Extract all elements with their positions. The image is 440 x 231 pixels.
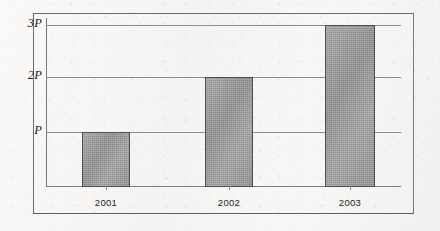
x-tick-2002 (229, 186, 230, 190)
x-tick-2001 (106, 186, 107, 190)
bar-2001[interactable] (82, 132, 130, 187)
chart-screenshot: 3P 2P P 2001 2002 2003 (0, 0, 440, 231)
plot-area: 3P 2P P 2001 2002 2003 (46, 18, 401, 186)
x-axis-label-2001: 2001 (95, 198, 117, 208)
y-axis-label-3p: 3P (28, 17, 42, 30)
x-axis-label-2002: 2002 (218, 198, 240, 208)
y-axis-label-2p: 2P (28, 69, 42, 82)
x-tick-2003 (350, 186, 351, 190)
x-axis-label-2003: 2003 (339, 198, 361, 208)
bar-2002[interactable] (205, 77, 253, 187)
y-axis-label-p: P (34, 124, 42, 137)
bar-2003[interactable] (325, 25, 375, 187)
y-axis-line (46, 18, 47, 186)
